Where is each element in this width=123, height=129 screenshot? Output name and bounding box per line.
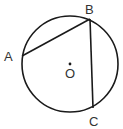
label-c: C — [89, 114, 98, 129]
circle-diagram: A B C O — [0, 0, 123, 129]
chord-ab — [22, 19, 90, 56]
center-point-o — [69, 63, 72, 66]
label-o: O — [65, 66, 75, 81]
label-a: A — [4, 49, 13, 64]
chord-bc — [90, 19, 93, 108]
label-b: B — [85, 2, 94, 17]
